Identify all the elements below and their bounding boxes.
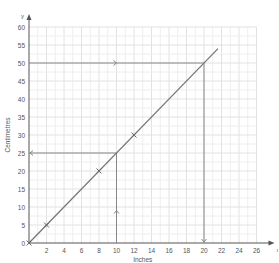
y-axis-arrow-icon xyxy=(27,14,32,20)
y-tick-label: 20 xyxy=(18,168,26,175)
y-tick-label: 40 xyxy=(18,96,26,103)
y-tick-label: 30 xyxy=(18,132,26,139)
x-tick-label: 14 xyxy=(148,247,156,254)
y-tick-label: 55 xyxy=(18,42,26,49)
x-tick-label: 18 xyxy=(183,247,191,254)
y-tick-label: 15 xyxy=(18,186,26,193)
x-tick-label: 8 xyxy=(97,247,101,254)
x-tick-label: 26 xyxy=(253,247,261,254)
x-tick-label: 20 xyxy=(200,247,208,254)
x-axis-title: Inches xyxy=(133,256,153,263)
y-tick-label: 25 xyxy=(18,150,26,157)
y-tick-label: 35 xyxy=(18,114,26,121)
conversion-chart: xy24681012141618202224260510152025303540… xyxy=(0,0,278,263)
x-tick-label: 2 xyxy=(45,247,49,254)
x-tick-label: 4 xyxy=(62,247,66,254)
x-tick-label: 16 xyxy=(165,247,173,254)
x-tick-label: 24 xyxy=(235,247,243,254)
y-axis-title: Centimetres xyxy=(4,117,11,153)
y-tick-label: 50 xyxy=(18,60,26,67)
y-tick-label: 0 xyxy=(21,240,25,247)
x-axis-arrow-icon xyxy=(269,241,275,246)
x-axis-letter: x xyxy=(277,247,279,253)
y-tick-label: 10 xyxy=(18,204,26,211)
x-tick-label: 22 xyxy=(218,247,226,254)
chart-canvas: xy24681012141618202224260510152025303540… xyxy=(0,0,278,263)
y-axis-letter: y xyxy=(21,13,24,19)
x-tick-label: 12 xyxy=(130,247,138,254)
x-tick-label: 6 xyxy=(80,247,84,254)
x-tick-label: 10 xyxy=(113,247,121,254)
y-tick-label: 60 xyxy=(18,24,26,31)
y-tick-label: 5 xyxy=(21,222,25,229)
y-tick-label: 45 xyxy=(18,78,26,85)
conversion-line xyxy=(29,49,218,243)
